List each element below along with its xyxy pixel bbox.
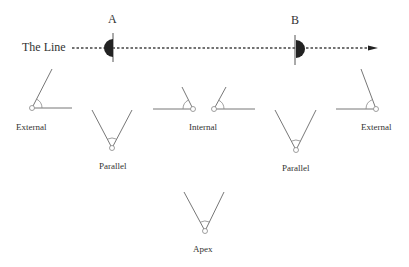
parallel-left-label: Parallel — [99, 161, 127, 171]
angle-external-left: External — [16, 69, 72, 132]
angle-apex: Apex — [184, 192, 224, 254]
point-b-marker: B — [291, 13, 305, 65]
arrow-head-icon — [368, 46, 378, 51]
angle-parallel-left: Parallel — [92, 110, 132, 171]
point-a-marker: A — [104, 12, 117, 62]
point-a-label: A — [108, 12, 117, 26]
angle-external-right: External — [336, 69, 392, 132]
point-b-label: B — [291, 13, 299, 27]
angle-types-diagram: The Line A B External Parallel — [0, 0, 409, 267]
the-line — [72, 46, 378, 51]
apex-label: Apex — [193, 244, 213, 254]
external-left-label: External — [16, 122, 47, 132]
half-disc-left-icon — [104, 39, 113, 57]
internal-label: Internal — [189, 122, 217, 132]
parallel-right-label: Parallel — [282, 163, 310, 173]
line-label: The Line — [22, 40, 66, 54]
half-disc-right-icon — [296, 40, 305, 58]
angle-internal: Internal — [153, 87, 255, 132]
external-right-label: External — [361, 122, 392, 132]
angle-parallel-right: Parallel — [275, 110, 316, 173]
